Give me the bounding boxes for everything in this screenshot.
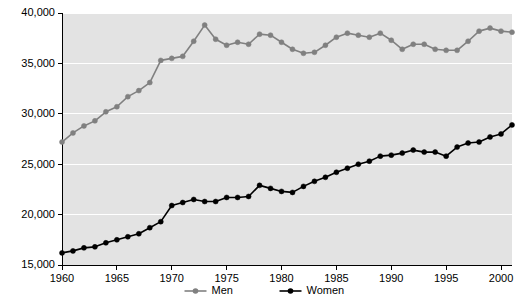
data-point [224, 43, 229, 48]
data-point [114, 237, 119, 242]
data-point [92, 244, 97, 249]
data-point [279, 40, 284, 45]
data-point [279, 189, 284, 194]
data-point [268, 33, 273, 38]
data-point [466, 141, 471, 146]
x-tick-label: 1990 [379, 272, 403, 284]
data-point [158, 58, 163, 63]
data-point [367, 159, 372, 164]
data-point [477, 29, 482, 34]
y-tick-label: 25,000 [21, 158, 55, 170]
data-point [103, 240, 108, 245]
y-tick-label: 40,000 [21, 6, 55, 18]
data-point [103, 109, 108, 114]
data-point [323, 43, 328, 48]
data-point [433, 47, 438, 52]
x-tick-label: 1965 [105, 272, 129, 284]
data-point [323, 175, 328, 180]
data-point [466, 39, 471, 44]
data-point [301, 184, 306, 189]
data-point [455, 48, 460, 53]
data-point [136, 231, 141, 236]
x-tick-label: 1995 [434, 272, 458, 284]
data-point [114, 104, 119, 109]
data-point [246, 194, 251, 199]
data-point [312, 50, 317, 55]
data-point [422, 42, 427, 47]
data-point [125, 94, 130, 99]
data-point [125, 234, 130, 239]
data-point [444, 48, 449, 53]
x-tick-label: 2000 [489, 272, 513, 284]
y-tick-label: 20,000 [21, 208, 55, 220]
x-tick-label: 1975 [214, 272, 238, 284]
data-point [510, 122, 515, 127]
data-point [477, 140, 482, 145]
plot-svg: 15,00020,00025,00030,00035,00040,000 196… [0, 0, 519, 306]
data-point [356, 33, 361, 38]
data-point [334, 35, 339, 40]
data-point [345, 31, 350, 36]
x-tick-label: 1985 [324, 272, 348, 284]
data-point [202, 199, 207, 204]
data-point [235, 40, 240, 45]
data-point [213, 199, 218, 204]
data-point [158, 219, 163, 224]
data-point [444, 154, 449, 159]
data-point [147, 225, 152, 230]
data-point [180, 200, 185, 205]
x-tick-label: 1960 [50, 272, 74, 284]
legend-item-men[interactable]: Men [185, 284, 233, 296]
data-point [246, 42, 251, 47]
data-point [136, 88, 141, 93]
data-point [202, 23, 207, 28]
chart-legend: MenWomen [185, 284, 345, 296]
data-point [345, 166, 350, 171]
data-point [488, 26, 493, 31]
data-point [147, 80, 152, 85]
data-point [81, 123, 86, 128]
legend-label: Women [307, 284, 345, 296]
data-point [70, 130, 75, 135]
data-point [213, 37, 218, 42]
data-point [367, 35, 372, 40]
data-point [499, 29, 504, 34]
legend-marker [193, 288, 199, 294]
legend-label: Men [212, 284, 233, 296]
y-axis: 15,00020,00025,00030,00035,00040,000 [21, 6, 62, 270]
data-point [257, 32, 262, 37]
data-point [510, 30, 515, 35]
data-point [169, 203, 174, 208]
data-point [422, 150, 427, 155]
data-point [378, 154, 383, 159]
data-point [180, 54, 185, 59]
data-point [433, 150, 438, 155]
data-point [400, 151, 405, 156]
data-point [60, 140, 65, 145]
data-point [455, 145, 460, 150]
legend-item-women[interactable]: Women [280, 284, 345, 296]
data-point [235, 195, 240, 200]
data-point [488, 134, 493, 139]
data-point [169, 56, 174, 61]
data-point [191, 197, 196, 202]
data-point [389, 153, 394, 158]
data-point [301, 51, 306, 56]
data-point [257, 183, 262, 188]
data-point [81, 245, 86, 250]
data-point [224, 195, 229, 200]
data-point [290, 47, 295, 52]
legend-marker [288, 288, 294, 294]
data-point [411, 148, 416, 153]
x-tick-label: 1970 [160, 272, 184, 284]
data-point [411, 42, 416, 47]
line-chart: 15,00020,00025,00030,00035,00040,000 196… [0, 0, 519, 306]
data-point [290, 190, 295, 195]
data-point [60, 250, 65, 255]
y-tick-label: 30,000 [21, 107, 55, 119]
data-point [312, 179, 317, 184]
data-point [378, 31, 383, 36]
data-point [389, 38, 394, 43]
x-tick-label: 1980 [269, 272, 293, 284]
x-axis: 196019651970197519801985199019952000 [50, 265, 514, 284]
